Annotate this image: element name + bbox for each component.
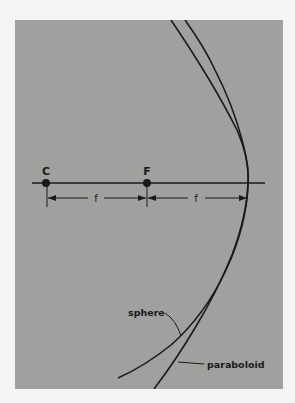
mirror-diagram: C F f f sphere paraboloid: [0, 0, 295, 403]
center-point: [42, 179, 50, 187]
sphere-leader: [165, 313, 181, 336]
sphere-curve: [118, 20, 248, 378]
center-label: C: [42, 165, 50, 178]
paraboloid-leader: [178, 362, 204, 364]
focal-length-label-left: f: [94, 193, 98, 204]
focus-label: F: [143, 165, 151, 178]
paraboloid-curve: [154, 20, 248, 389]
paraboloid-label: paraboloid: [207, 359, 264, 370]
focus-point: [143, 179, 151, 187]
focal-length-label-right: f: [194, 193, 198, 204]
sphere-label: sphere: [128, 307, 165, 318]
